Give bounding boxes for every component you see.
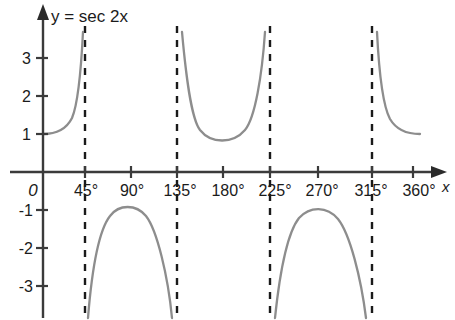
chart-page: 3 2 1 -1 -2 -3 0 45° 90° 135° 180° 225° … [0, 0, 455, 320]
y-tick-label-neg1: -1 [19, 202, 33, 219]
curve-branch-45-135 [88, 207, 172, 318]
x-tick-label-315: 315° [354, 182, 387, 199]
chart-title: y = sec 2x [51, 7, 129, 26]
x-tick-label-270: 270° [305, 182, 338, 199]
axes-group [10, 4, 447, 318]
curve-branch-135-225 [182, 32, 265, 141]
x-tick-label-225: 225° [258, 182, 291, 199]
y-tick-label-2: 2 [22, 88, 31, 105]
x-tick-label-135: 135° [163, 182, 196, 199]
x-axis-arrow-icon [431, 166, 447, 178]
x-tick-label-180: 180° [211, 182, 244, 199]
curve-branch-315-360 [377, 32, 420, 134]
curve-branch-0-45 [43, 32, 83, 134]
x-tick-label-90: 90° [120, 182, 144, 199]
x-axis-label: x [441, 178, 450, 195]
x-tick-label-360: 360° [402, 182, 435, 199]
sec-2x-graph: 3 2 1 -1 -2 -3 0 45° 90° 135° 180° 225° … [0, 0, 455, 320]
curve-branch-225-315 [275, 209, 366, 318]
origin-label: 0 [28, 181, 38, 200]
y-tick-label-3: 3 [22, 50, 31, 67]
x-tick-label-group: 45° 90° 135° 180° 225° 270° 315° 360° [74, 182, 436, 199]
y-tick-label-neg3: -3 [19, 278, 33, 295]
y-axis-arrow-icon [37, 4, 49, 20]
y-tick-label-neg2: -2 [19, 240, 33, 257]
x-tick-label-45: 45° [74, 182, 98, 199]
curve-group [43, 32, 420, 318]
y-tick-label-1: 1 [22, 126, 31, 143]
